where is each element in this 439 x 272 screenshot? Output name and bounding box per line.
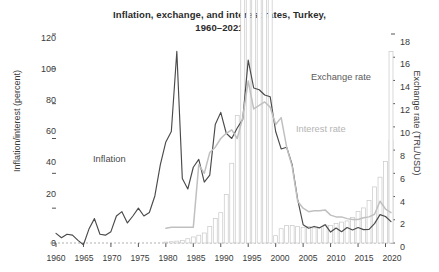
exchange-rate-bar	[213, 218, 217, 243]
exchange-rate-bar	[318, 228, 322, 243]
exchange-rate-bar	[180, 240, 184, 243]
exchange-rate-bar	[329, 226, 333, 243]
exchange-rate-bar	[263, 0, 267, 243]
exchange-rate-bar	[334, 223, 338, 243]
exchange-rate-bar	[323, 225, 327, 243]
exchange-rate-bar	[186, 239, 190, 243]
exchange-rate-bar	[301, 227, 305, 243]
annotation-inflation: Inflation	[93, 154, 126, 164]
exchange-rate-bar	[384, 162, 388, 243]
annotation-interest-rate: Interest rate	[296, 124, 346, 134]
exchange-rate-bar	[219, 213, 223, 243]
exchange-rate-bar	[296, 226, 300, 243]
exchange-rate-bar	[208, 227, 212, 243]
exchange-rate-bar	[202, 233, 206, 243]
exchange-rate-bar	[164, 242, 168, 243]
series-line-interest-rate	[166, 81, 391, 228]
exchange-rate-bar	[389, 51, 393, 243]
exchange-rate-bar	[268, 0, 272, 243]
exchange-rate-bar	[230, 163, 234, 243]
exchange-rate-bar	[290, 226, 294, 243]
exchange-rate-bar	[345, 221, 349, 243]
exchange-rate-bar	[175, 241, 179, 243]
chart-figure: Inflation, exchange, and interest rates,…	[0, 0, 439, 272]
exchange-rate-bar	[312, 228, 316, 243]
exchange-rate-bar	[191, 237, 195, 243]
exchange-rate-bar	[252, 0, 256, 243]
exchange-rate-bar	[378, 177, 382, 243]
exchange-rate-bar	[197, 235, 201, 243]
exchange-rate-bar	[257, 0, 261, 243]
exchange-rate-bar	[224, 195, 228, 243]
plot-canvas	[0, 0, 439, 272]
exchange-rate-bar	[279, 229, 283, 243]
exchange-rate-bar	[285, 225, 289, 243]
exchange-rate-bar	[169, 242, 173, 243]
exchange-rate-bar	[274, 236, 278, 243]
exchange-rate-bar	[367, 201, 371, 243]
annotation-exchange-rate: Exchange rate	[311, 72, 371, 82]
exchange-rate-bar	[307, 226, 311, 243]
exchange-rate-bar	[362, 208, 366, 243]
exchange-rate-bar	[340, 222, 344, 243]
exchange-rate-bar	[246, 0, 250, 243]
